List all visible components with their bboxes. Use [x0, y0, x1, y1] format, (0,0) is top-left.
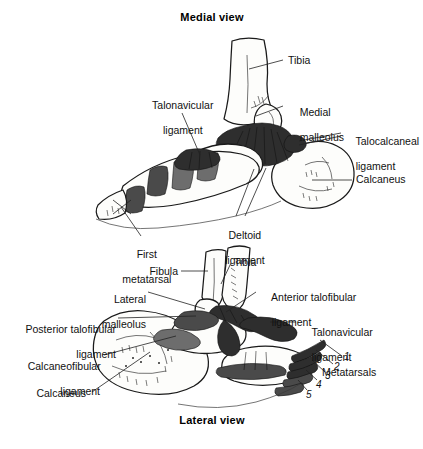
anatomy-figure: Medial view Tibia Medial malleolus Talon… — [0, 0, 423, 449]
label-calcaneofibular-line1: Calcaneofibular — [28, 360, 101, 372]
metatarsal-number-2: 2 — [334, 361, 340, 372]
label-deltoid: Deltoid ligament — [206, 216, 272, 279]
label-lateral-malleolus-line1: Lateral — [114, 293, 146, 305]
plantar-band-lateral — [216, 363, 286, 379]
label-medial-malleolus-line2: malleolus — [300, 131, 344, 143]
label-talonavicular-medial-line2: ligament — [163, 124, 203, 136]
label-calcaneus-medial: Calcaneus — [356, 173, 406, 186]
label-talocalcaneal-line1: Talocalcaneal — [355, 135, 419, 147]
metatarsal-number-4: 4 — [316, 379, 322, 390]
label-tibia-medial: Tibia — [288, 54, 310, 67]
first-metatarsal-bone — [96, 190, 126, 219]
label-medial-malleolus: Medial malleolus — [288, 93, 344, 156]
metatarsal-number-1: 1 — [344, 351, 350, 362]
label-deltoid-line1: Deltoid — [228, 229, 261, 241]
label-talocalcaneal-line2: ligament — [356, 160, 396, 172]
label-talonavicular-medial: Talonavicular ligament — [136, 86, 218, 149]
label-calcaneofibular: Calcaneofibular ligament — [16, 347, 100, 410]
label-calcaneus-lateral: Calcaneus — [30, 387, 86, 400]
lateral-view-title: Lateral view — [166, 414, 258, 426]
label-medial-malleolus-line1: Medial — [300, 106, 331, 118]
label-talonavicular-medial-line1: Talonavicular — [152, 99, 213, 111]
label-anterior-talofibular-line1: Anterior talofibular — [271, 291, 356, 303]
medial-view-title: Medial view — [166, 11, 258, 23]
label-talonavicular-lateral-line1: Talonavicular — [311, 326, 372, 338]
label-posterior-talofibular-line1: Posterior talofibular — [26, 323, 116, 335]
label-first-metatarsal-line1: First — [137, 248, 157, 260]
metatarsal-number-3: 3 — [325, 370, 331, 381]
label-tibia-lateral: Tibia — [234, 256, 256, 269]
metatarsal-number-5: 5 — [306, 389, 312, 400]
label-fibula: Fibula — [126, 265, 178, 278]
